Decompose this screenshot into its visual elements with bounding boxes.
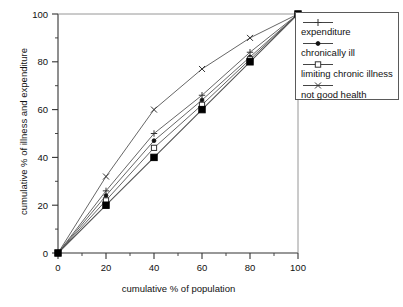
y-axis-title: cumulative % of illness and expenditure [18, 27, 29, 237]
legend-label: chronically ill [301, 47, 393, 58]
x-axis-ticks [58, 253, 298, 259]
data-point [247, 59, 253, 65]
data-point [55, 250, 61, 256]
x-tick-label: 20 [101, 262, 112, 273]
dot-marker-icon [301, 38, 393, 47]
legend-label: expenditure [301, 26, 393, 37]
legend-entry-not-good-health[interactable]: not good health [301, 80, 393, 100]
y-axis-ticks [52, 14, 58, 253]
data-point [152, 139, 156, 143]
data-point [103, 202, 109, 208]
data-point [247, 35, 253, 41]
open-square-marker-icon [301, 59, 393, 68]
data-point [151, 107, 157, 113]
legend-entry-chronically-ill[interactable]: chronically ill [301, 38, 393, 58]
data-point [151, 145, 156, 150]
data-series-layer [55, 11, 301, 256]
plus-marker-icon [301, 17, 393, 26]
data-point [103, 174, 109, 180]
legend: expenditure chronically ill limiting chr… [295, 12, 399, 100]
y-tick-label: 0 [43, 248, 48, 259]
data-point [199, 106, 205, 112]
y-tick-label: 100 [32, 9, 48, 20]
data-point [199, 66, 205, 72]
cross-marker-icon [301, 80, 393, 89]
x-axis-title: cumulative % of population [56, 283, 301, 294]
legend-entry-limiting-chronic-illness[interactable]: limiting chronic illness [301, 59, 393, 79]
x-tick-label: 100 [290, 262, 306, 273]
x-tick-label: 40 [149, 262, 160, 273]
data-point [104, 194, 108, 198]
y-tick-label: 80 [37, 56, 48, 67]
y-tick-label: 40 [37, 152, 48, 163]
y-tick-labels: 0 20 40 60 80 100 [32, 9, 48, 259]
y-tick-label: 20 [37, 200, 48, 211]
legend-label: not good health [301, 89, 393, 100]
y-tick-label: 60 [37, 104, 48, 115]
lorenz-curve-figure: 0 20 40 60 80 100 0 20 40 60 80 100 cumu… [0, 0, 403, 307]
x-tick-label: 0 [55, 262, 60, 273]
legend-entry-expenditure[interactable]: expenditure [301, 17, 393, 37]
legend-label: limiting chronic illness [301, 68, 393, 79]
data-point [200, 98, 204, 102]
data-point [151, 154, 157, 160]
x-tick-label: 80 [245, 262, 256, 273]
series-line-of-equality [55, 11, 301, 256]
x-tick-labels: 0 20 40 60 80 100 [55, 262, 306, 273]
x-tick-label: 60 [197, 262, 208, 273]
